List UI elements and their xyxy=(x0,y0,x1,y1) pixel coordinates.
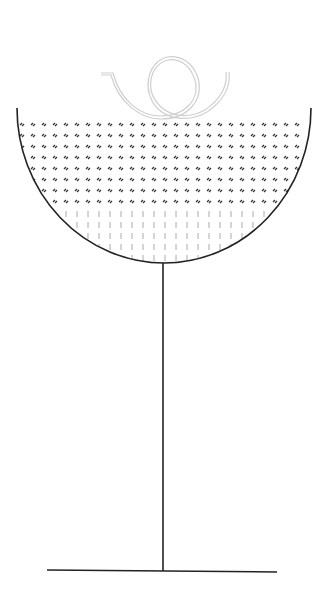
liquid-dot xyxy=(97,156,101,159)
liquid-dot xyxy=(207,200,211,203)
liquid-dot xyxy=(240,200,244,203)
liquid-dot xyxy=(251,167,255,170)
liquid-dot xyxy=(163,156,167,159)
liquid-dot xyxy=(141,123,145,126)
liquid-dot xyxy=(229,167,233,170)
liquid-dot xyxy=(20,178,24,181)
liquid-dot xyxy=(284,167,288,170)
liquid-dot xyxy=(218,156,222,159)
liquid-dot xyxy=(119,156,123,159)
liquid-dot xyxy=(108,134,112,137)
liquid-dot xyxy=(174,156,178,159)
liquid-dot xyxy=(75,178,79,181)
liquid-dot xyxy=(273,200,277,203)
liquid-dot xyxy=(42,123,46,126)
liquid-dot xyxy=(64,156,68,159)
liquid-dot xyxy=(229,189,233,192)
liquid-dot xyxy=(273,134,277,137)
liquid-dot xyxy=(163,123,167,126)
liquid-dot xyxy=(174,123,178,126)
liquid-dot xyxy=(141,178,145,181)
liquid-dot xyxy=(141,156,145,159)
liquid-dot xyxy=(295,156,299,159)
liquid-dot xyxy=(163,178,167,181)
liquid-dot xyxy=(196,156,200,159)
liquid-dot xyxy=(262,145,266,148)
liquid-dot xyxy=(152,156,156,159)
liquid-dot xyxy=(207,123,211,126)
cocktail-glass-drawing xyxy=(0,0,318,610)
liquid-dot xyxy=(130,145,134,148)
glass-bowl-outline xyxy=(17,108,311,263)
liquid-dot xyxy=(262,200,266,203)
liquid-dot xyxy=(130,134,134,137)
liquid-dot xyxy=(130,167,134,170)
liquid-dot xyxy=(75,167,79,170)
liquid-dot xyxy=(31,145,35,148)
liquid-dot xyxy=(196,200,200,203)
liquid-dot xyxy=(97,200,101,203)
liquid-dot xyxy=(108,145,112,148)
liquid-dot xyxy=(53,156,57,159)
liquid-pattern xyxy=(20,123,299,261)
liquid-dot xyxy=(240,123,244,126)
liquid-dot xyxy=(119,167,123,170)
liquid-dot xyxy=(207,145,211,148)
liquid-dot xyxy=(42,178,46,181)
liquid-dot xyxy=(295,189,299,192)
liquid-dot xyxy=(207,134,211,137)
liquid-dot xyxy=(273,123,277,126)
liquid-dot xyxy=(86,134,90,137)
liquid-dot xyxy=(152,145,156,148)
liquid-dot xyxy=(207,156,211,159)
liquid-dot xyxy=(273,145,277,148)
liquid-dot xyxy=(284,200,288,203)
liquid-dot xyxy=(218,123,222,126)
liquid-dot xyxy=(53,189,57,192)
liquid-dot xyxy=(53,123,57,126)
liquid-dot xyxy=(218,145,222,148)
liquid-dot xyxy=(119,123,123,126)
liquid-dot xyxy=(262,189,266,192)
liquid-dot xyxy=(42,145,46,148)
liquid-dot xyxy=(97,167,101,170)
liquid-dot xyxy=(86,178,90,181)
liquid-dot xyxy=(185,178,189,181)
liquid-dot xyxy=(152,134,156,137)
liquid-dot xyxy=(163,145,167,148)
liquid-dot xyxy=(86,145,90,148)
liquid-dot xyxy=(207,167,211,170)
liquid-dot xyxy=(97,123,101,126)
liquid-dot xyxy=(229,178,233,181)
liquid-dot xyxy=(196,178,200,181)
liquid-dot xyxy=(262,123,266,126)
liquid-dot xyxy=(284,123,288,126)
liquid-dot xyxy=(196,134,200,137)
liquid-dot xyxy=(196,145,200,148)
liquid-dot xyxy=(174,167,178,170)
liquid-dot xyxy=(240,167,244,170)
liquid-dot xyxy=(130,189,134,192)
liquid-dot xyxy=(75,145,79,148)
liquid-dot xyxy=(163,189,167,192)
liquid-dot xyxy=(295,123,299,126)
liquid-dot xyxy=(152,189,156,192)
liquid-dot xyxy=(251,178,255,181)
liquid-dot xyxy=(42,189,46,192)
liquid-dot xyxy=(42,167,46,170)
liquid-dot xyxy=(75,134,79,137)
liquid-dot xyxy=(185,145,189,148)
liquid-dot xyxy=(53,200,57,203)
liquid-dot xyxy=(20,134,24,137)
liquid-dot xyxy=(185,134,189,137)
liquid-dot xyxy=(218,167,222,170)
liquid-dot xyxy=(86,156,90,159)
liquid-dot xyxy=(196,167,200,170)
liquid-dot xyxy=(229,134,233,137)
liquid-dot xyxy=(174,145,178,148)
liquid-dot xyxy=(97,189,101,192)
liquid-dot xyxy=(229,123,233,126)
glass-base xyxy=(47,570,277,572)
liquid-dot xyxy=(185,167,189,170)
liquid-dot xyxy=(196,123,200,126)
